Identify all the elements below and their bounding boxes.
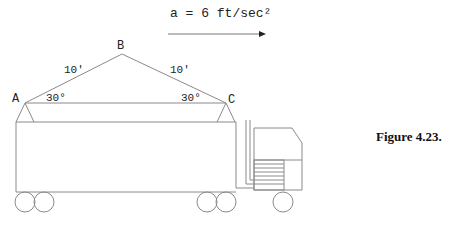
length-bc-label: 10' — [170, 64, 190, 76]
trailer — [16, 122, 236, 192]
member-ab — [25, 54, 122, 103]
wheel-icon — [15, 192, 35, 212]
hitch — [236, 120, 254, 188]
wheel-icon — [216, 192, 236, 212]
angle-a-label: 30° — [46, 92, 66, 104]
length-ab-label: 10' — [64, 64, 84, 76]
point-a-label: A — [12, 92, 20, 106]
truck-truss-diagram: a = 6 ft/sec² B A C 10' 10' 30° 30° — [0, 0, 450, 226]
acceleration-arrow-icon — [168, 31, 266, 37]
wheel-icon — [34, 192, 54, 212]
point-c-label: C — [228, 93, 235, 107]
member-bc — [122, 54, 226, 103]
figure-caption: Figure 4.23. — [376, 129, 442, 145]
acceleration-label: a = 6 ft/sec² — [170, 6, 271, 21]
wheel-icon — [273, 192, 293, 212]
wheel-icon — [197, 192, 217, 212]
angle-c-label: 30° — [181, 92, 201, 104]
truck-cab — [254, 128, 302, 190]
point-b-label: B — [117, 39, 124, 53]
